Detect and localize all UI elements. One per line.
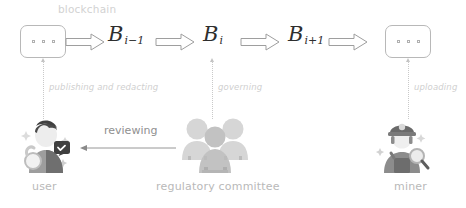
block-base: B	[108, 22, 123, 46]
block-base: B	[203, 22, 218, 46]
caption-regulatory-committee: regulatory committee	[156, 180, 280, 193]
connector-label-governing: governing	[218, 82, 262, 92]
block-i-minus-1: Bi−1	[108, 24, 144, 46]
reviewing-label: reviewing	[104, 124, 157, 137]
actor-miner	[372, 115, 432, 173]
caption-miner: miner	[394, 180, 427, 193]
ellipsis-dot	[52, 40, 55, 43]
block-prev-ellipsis	[20, 25, 66, 58]
ellipsis-dot	[397, 40, 400, 43]
chain-arrow-icon	[65, 33, 105, 55]
block-i: Bi	[203, 24, 223, 46]
connector-label-uploading: uploading	[414, 82, 457, 92]
blockchain-label: blockchain	[58, 3, 116, 15]
chain-arrow-icon	[240, 33, 280, 55]
ellipsis-dot	[407, 40, 410, 43]
block-next-ellipsis	[385, 25, 431, 58]
actor-regulatory-committee	[180, 115, 250, 173]
caption-user: user	[32, 180, 57, 193]
block-subscript: i	[218, 34, 223, 47]
ellipsis-dot	[42, 40, 45, 43]
connector-committee-to-block	[212, 61, 214, 119]
connector-user-to-chain	[43, 61, 45, 119]
block-i-plus-1: Bi+1	[288, 24, 324, 46]
block-subscript: i−1	[123, 34, 144, 47]
ellipsis-dot	[417, 40, 420, 43]
chain-arrow-icon	[328, 33, 368, 55]
reviewing-arrow-icon	[80, 138, 176, 157]
diagram-canvas: blockchain Bi−1 Bi Bi+1	[0, 0, 466, 208]
connector-label-publishing: publishing and redacting	[49, 82, 158, 92]
connector-miner-to-chain	[408, 61, 410, 119]
block-subscript: i+1	[303, 34, 324, 47]
ellipsis-dot	[32, 40, 35, 43]
block-base: B	[288, 22, 303, 46]
chain-arrow-icon	[155, 33, 195, 55]
actor-user	[16, 115, 76, 173]
